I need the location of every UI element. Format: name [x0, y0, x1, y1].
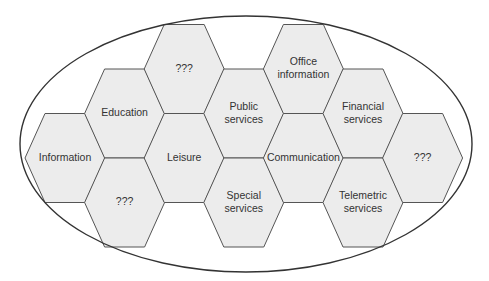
hexagon-label: Public	[229, 100, 258, 112]
hexagon-label: services	[344, 113, 383, 125]
service-hexagon-diagram: InformationEducation??????LeisurePublics…	[0, 0, 489, 281]
hexagon-label: information	[277, 68, 329, 80]
hexagon-layer: InformationEducation??????LeisurePublics…	[25, 25, 463, 248]
hexagon-label: ???	[116, 195, 134, 207]
hexagon-label: Office	[290, 55, 317, 67]
hexagon-label: Financial	[342, 100, 384, 112]
hexagon-label: services	[225, 113, 264, 125]
hexagon-label: ???	[414, 151, 432, 163]
hexagon-label: Telemetric	[339, 189, 387, 201]
hexagon-label: Education	[101, 106, 148, 118]
hexagon-label: Communication	[267, 151, 340, 163]
hexagon-label: services	[225, 202, 264, 214]
hexagon-label: Information	[39, 151, 92, 163]
hexagon-label: services	[344, 202, 383, 214]
hexagon-label: ???	[175, 62, 193, 74]
hexagon-label: Special	[227, 189, 261, 201]
hexagon-label: Leisure	[167, 151, 202, 163]
